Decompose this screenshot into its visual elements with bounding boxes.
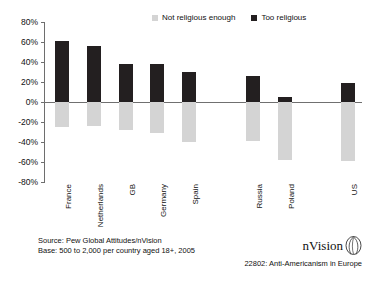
source-note: Source: Pew Global Attitudes/nVision — [38, 236, 195, 246]
y-tick-label: -40% — [18, 138, 38, 147]
bar-slot — [87, 22, 101, 182]
bar-slot — [341, 22, 355, 182]
bar-slot — [182, 22, 196, 182]
bar-too-religious — [341, 83, 355, 102]
base-note: Base: 500 to 2,000 per country aged 18+,… — [38, 246, 195, 256]
x-axis-label: Netherlands — [97, 184, 105, 227]
brand-row: nVision — [244, 236, 362, 255]
bar-not-religious-enough — [55, 102, 69, 127]
y-tick-label: 0% — [26, 98, 38, 107]
x-axis-label: US — [351, 184, 359, 195]
legend-item-too-religious: Too religious — [251, 14, 306, 22]
y-tick-label: 40% — [21, 58, 38, 67]
bar-too-religious — [55, 41, 69, 102]
chart-container: Not religious enough Too religious 80%60… — [0, 0, 370, 281]
x-axis-label: Russia — [256, 184, 264, 208]
bar-slot — [150, 22, 164, 182]
y-tick-label: -20% — [18, 118, 38, 127]
footer-notes: Source: Pew Global Attitudes/nVision Bas… — [38, 236, 195, 256]
bar-not-religious-enough — [150, 102, 164, 133]
y-tick-label: 60% — [21, 38, 38, 47]
bar-slot-empty — [309, 22, 323, 182]
x-axis-label: Spain — [192, 184, 200, 204]
bar-not-religious-enough — [341, 102, 355, 161]
bar-too-religious — [87, 46, 101, 102]
x-axis-label: Germany — [160, 184, 168, 217]
y-tick-mark — [41, 182, 45, 183]
x-axis-label: Poland — [288, 184, 296, 209]
nvision-logo-icon — [345, 236, 362, 255]
legend-label-too-religious: Too religious — [261, 14, 306, 22]
legend-swatch-too-religious — [251, 15, 257, 21]
bar-not-religious-enough — [278, 102, 292, 160]
y-tick-label: -60% — [18, 158, 38, 167]
legend-swatch-not-religious-enough — [152, 15, 158, 21]
bar-slot — [278, 22, 292, 182]
legend-label-not-religious-enough: Not religious enough — [162, 14, 235, 22]
bar-too-religious — [246, 76, 260, 102]
y-tick-label: 80% — [21, 18, 38, 27]
bar-slot-empty — [214, 22, 228, 182]
y-tick-label: 20% — [21, 78, 38, 87]
bar-group — [44, 22, 362, 182]
bar-too-religious — [119, 64, 133, 102]
bar-slot — [55, 22, 69, 182]
y-tick-label: -80% — [18, 178, 38, 187]
brand-block: nVision 22802: Anti-Americanism in Europ… — [244, 236, 362, 269]
bar-not-religious-enough — [87, 102, 101, 126]
bar-slot — [119, 22, 133, 182]
brand-name: nVision — [303, 239, 343, 252]
bar-slot — [246, 22, 260, 182]
bar-not-religious-enough — [182, 102, 196, 142]
plot-area: 80%60%40%20%0%-20%-40%-60%-80% FranceNet… — [44, 22, 362, 182]
bar-not-religious-enough — [119, 102, 133, 130]
x-axis-label: GB — [129, 184, 137, 196]
x-axis-label: France — [65, 184, 73, 209]
chart-caption: 22802: Anti-Americanism in Europe — [244, 259, 362, 269]
bar-too-religious — [182, 72, 196, 102]
legend-item-not-religious-enough: Not religious enough — [152, 14, 235, 22]
bar-not-religious-enough — [246, 102, 260, 141]
bar-too-religious — [150, 64, 164, 102]
